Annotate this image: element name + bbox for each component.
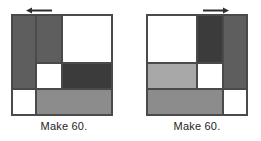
cell-bottom-strip <box>36 89 112 115</box>
arrow-left-icon <box>26 7 52 14</box>
cell-bottom-strip <box>147 89 223 115</box>
puzzle-square-right <box>146 14 248 116</box>
cell-middle-white <box>197 63 223 89</box>
cell-second-column <box>36 15 62 63</box>
caption-left: Make 60. <box>4 120 124 132</box>
cell-right-column <box>223 15 247 89</box>
cell-bottom-right-white <box>223 89 247 115</box>
puzzle-panel-left: Make 60. <box>4 0 124 141</box>
caption-right: Make 60. <box>137 120 257 132</box>
cell-left-column <box>12 15 36 89</box>
arrow-right-icon <box>203 7 229 14</box>
cell-middle-white <box>36 63 62 89</box>
figure-container: Make 60. Make 60. <box>0 0 261 141</box>
puzzle-square-left <box>11 14 113 116</box>
cell-middle-light-band <box>147 63 197 89</box>
cell-top-left-white <box>147 15 197 63</box>
cell-middle-dark <box>62 63 112 89</box>
cell-top-right-white <box>62 15 112 63</box>
puzzle-panel-right: Make 60. <box>137 0 257 141</box>
cell-bottom-left-white <box>12 89 36 115</box>
cell-top-dark-block <box>197 15 223 63</box>
